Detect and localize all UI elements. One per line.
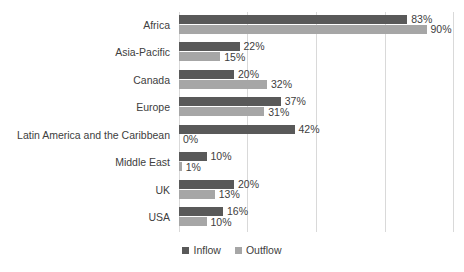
bar-rows: Africa83%90%Asia-Pacific22%15%Canada20%3… <box>0 12 464 232</box>
chart-legend: InflowOutflow <box>0 245 464 256</box>
bar-outflow <box>179 217 207 226</box>
legend-item-inflow[interactable]: Inflow <box>182 245 220 256</box>
category-label: Middle East <box>115 157 170 169</box>
bar-group: 42%0% <box>179 122 464 150</box>
bar-inflow <box>179 97 281 106</box>
bar-group: 16%10% <box>179 205 464 233</box>
data-label-inflow: 37% <box>285 96 306 107</box>
bar-row: Middle East10%1% <box>0 150 464 178</box>
bar-group: 20%13% <box>179 177 464 205</box>
legend-label: Inflow <box>193 245 220 256</box>
bar-inflow <box>179 70 234 79</box>
bar-group: 10%1% <box>179 150 464 178</box>
bar-inflow <box>179 207 223 216</box>
legend-item-outflow[interactable]: Outflow <box>235 245 282 256</box>
data-label-inflow: 42% <box>299 124 320 135</box>
bar-row: Canada20%32% <box>0 67 464 95</box>
bar-outflow <box>179 25 427 34</box>
category-label: Asia-Pacific <box>115 47 170 59</box>
legend-swatch-icon <box>235 247 242 254</box>
bar-chart: Africa83%90%Asia-Pacific22%15%Canada20%3… <box>0 0 464 272</box>
data-label-inflow: 16% <box>227 206 248 217</box>
bar-inflow <box>179 42 240 51</box>
category-label: Latin America and the Caribbean <box>17 130 170 142</box>
bar-group: 37%31% <box>179 95 464 123</box>
bar-outflow <box>179 162 182 171</box>
bar-row: Africa83%90% <box>0 12 464 40</box>
data-label-inflow: 83% <box>411 14 432 25</box>
legend-label: Outflow <box>246 245 282 256</box>
bar-row: Europe37%31% <box>0 95 464 123</box>
data-label-outflow: 10% <box>211 217 232 228</box>
bar-row: Latin America and the Caribbean42%0% <box>0 122 464 150</box>
data-label-outflow: 1% <box>186 162 201 173</box>
bar-row: Asia-Pacific22%15% <box>0 40 464 68</box>
category-label: Canada <box>133 75 170 87</box>
bar-row: UK20%13% <box>0 177 464 205</box>
bar-outflow <box>179 107 264 116</box>
data-label-outflow: 0% <box>183 134 198 145</box>
category-label: Europe <box>136 102 170 114</box>
legend-swatch-icon <box>182 247 189 254</box>
data-label-inflow: 10% <box>211 151 232 162</box>
bar-outflow <box>179 190 215 199</box>
category-label: UK <box>155 185 170 197</box>
bar-group: 20%32% <box>179 67 464 95</box>
data-label-outflow: 32% <box>271 79 292 90</box>
category-label: USA <box>148 212 170 224</box>
bar-group: 83%90% <box>179 12 464 40</box>
bar-outflow <box>179 52 220 61</box>
data-label-outflow: 90% <box>431 24 452 35</box>
category-label: Africa <box>143 20 170 32</box>
data-label-outflow: 13% <box>219 189 240 200</box>
data-label-outflow: 15% <box>224 52 245 63</box>
bar-row: USA16%10% <box>0 205 464 233</box>
data-label-inflow: 20% <box>238 179 259 190</box>
data-label-inflow: 22% <box>244 41 265 52</box>
data-label-inflow: 20% <box>238 69 259 80</box>
bar-outflow <box>179 80 267 89</box>
bar-inflow <box>179 15 407 24</box>
bar-group: 22%15% <box>179 40 464 68</box>
data-label-outflow: 31% <box>268 107 289 118</box>
bar-inflow <box>179 152 207 161</box>
